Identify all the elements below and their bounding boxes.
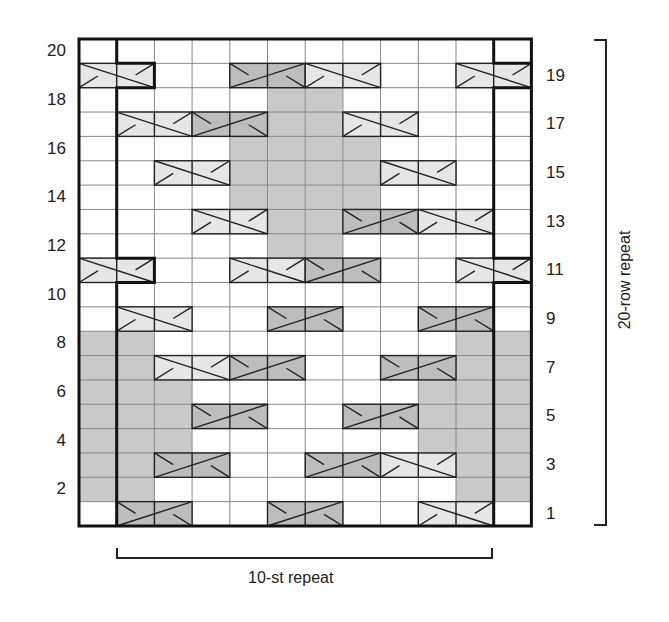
chart-cell bbox=[79, 283, 117, 307]
chart-cell bbox=[381, 331, 419, 355]
chart-cell bbox=[230, 453, 268, 477]
left-cross-cable-icon bbox=[268, 307, 343, 331]
chart-cell bbox=[456, 136, 494, 160]
chart-cell bbox=[343, 39, 381, 63]
chart-cell bbox=[230, 477, 268, 501]
left-cross-cable-icon bbox=[192, 404, 267, 428]
stitch-repeat-bracket bbox=[117, 548, 492, 558]
chart-cell bbox=[305, 283, 343, 307]
chart-cell bbox=[494, 185, 532, 209]
chart-cell bbox=[494, 307, 532, 331]
chart-cell bbox=[456, 88, 494, 112]
left-cross-cable-icon bbox=[305, 258, 380, 282]
chart-cell bbox=[117, 185, 155, 209]
chart-cell bbox=[79, 234, 117, 258]
row-repeat-bracket bbox=[594, 40, 606, 525]
right-cross-cable-icon bbox=[154, 161, 229, 185]
chart-cell bbox=[79, 404, 117, 428]
chart-cell bbox=[456, 161, 494, 185]
chart-cell bbox=[381, 502, 419, 526]
chart-cell bbox=[456, 429, 494, 453]
chart-cell bbox=[79, 88, 117, 112]
chart-cell bbox=[418, 63, 456, 87]
row-number-label: 19 bbox=[546, 66, 565, 86]
chart-cell bbox=[494, 112, 532, 136]
row-number-label: 4 bbox=[26, 431, 66, 451]
chart-cell bbox=[494, 502, 532, 526]
chart-cell bbox=[343, 356, 381, 380]
chart-cell bbox=[305, 234, 343, 258]
row-number-label: 3 bbox=[546, 455, 555, 475]
right-cross-cable-icon bbox=[79, 63, 154, 87]
row-number-label: 2 bbox=[26, 479, 66, 499]
chart-cell bbox=[154, 234, 192, 258]
row-number-label: 15 bbox=[546, 163, 565, 183]
chart-cell bbox=[230, 283, 268, 307]
chart-cell bbox=[79, 136, 117, 160]
chart-cell bbox=[456, 380, 494, 404]
chart-cell bbox=[154, 136, 192, 160]
chart-cell bbox=[230, 185, 268, 209]
row-number-label: 11 bbox=[546, 260, 564, 280]
chart-cell bbox=[230, 136, 268, 160]
row-repeat-label: 20-row repeat bbox=[616, 231, 634, 330]
chart-cell bbox=[230, 88, 268, 112]
chart-cell bbox=[192, 331, 230, 355]
chart-cell bbox=[494, 453, 532, 477]
chart-cell bbox=[117, 429, 155, 453]
left-cross-cable-icon bbox=[305, 453, 380, 477]
chart-cell bbox=[418, 234, 456, 258]
chart-cell bbox=[79, 185, 117, 209]
chart-cell bbox=[343, 136, 381, 160]
chart-cell bbox=[154, 404, 192, 428]
row-number-label: 1 bbox=[546, 504, 555, 524]
chart-cell bbox=[154, 209, 192, 233]
chart-cell bbox=[117, 331, 155, 355]
chart-cell bbox=[381, 88, 419, 112]
chart-cell bbox=[154, 477, 192, 501]
chart-cell bbox=[305, 39, 343, 63]
chart-cell bbox=[192, 258, 230, 282]
chart-cell bbox=[154, 88, 192, 112]
chart-cell bbox=[79, 307, 117, 331]
chart-cell bbox=[230, 161, 268, 185]
chart-cell bbox=[381, 258, 419, 282]
chart-cell bbox=[381, 380, 419, 404]
chart-cell bbox=[418, 331, 456, 355]
chart-cell bbox=[456, 112, 494, 136]
chart-cell bbox=[230, 380, 268, 404]
left-cross-cable-icon bbox=[117, 502, 192, 526]
chart-cell bbox=[456, 356, 494, 380]
right-cross-cable-icon bbox=[117, 307, 192, 331]
chart-cell bbox=[117, 39, 155, 63]
chart-cell bbox=[79, 331, 117, 355]
chart-cell bbox=[192, 307, 230, 331]
chart-cell bbox=[230, 429, 268, 453]
chart-cell bbox=[268, 39, 306, 63]
chart-cell bbox=[418, 39, 456, 63]
chart-cell bbox=[192, 380, 230, 404]
chart-cell bbox=[456, 39, 494, 63]
chart-cell bbox=[494, 331, 532, 355]
chart-cell bbox=[494, 356, 532, 380]
chart-cell bbox=[192, 477, 230, 501]
chart-cell bbox=[192, 136, 230, 160]
chart-cell bbox=[305, 209, 343, 233]
chart-cell bbox=[418, 283, 456, 307]
chart-cell bbox=[117, 477, 155, 501]
chart-cell bbox=[268, 453, 306, 477]
chart-cell bbox=[456, 283, 494, 307]
chart-cell bbox=[305, 185, 343, 209]
chart-cell bbox=[268, 331, 306, 355]
chart-cell bbox=[418, 477, 456, 501]
chart-cell bbox=[343, 234, 381, 258]
chart-cell bbox=[381, 283, 419, 307]
chart-cell bbox=[343, 380, 381, 404]
right-cross-cable-icon bbox=[456, 63, 531, 87]
chart-cell bbox=[305, 161, 343, 185]
chart-cell bbox=[381, 39, 419, 63]
chart-cell bbox=[268, 404, 306, 428]
chart-cell bbox=[343, 88, 381, 112]
chart-cell bbox=[305, 356, 343, 380]
chart-cell bbox=[79, 161, 117, 185]
